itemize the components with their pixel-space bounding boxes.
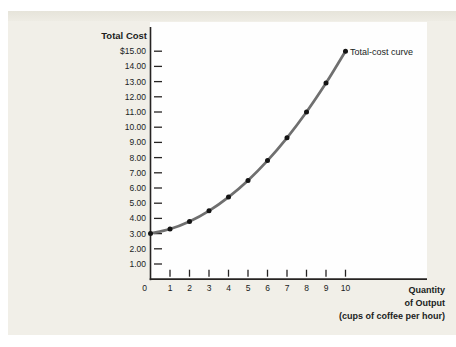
y-tick-label: 3.00 (129, 229, 146, 239)
data-point-marker (226, 195, 231, 200)
y-tick-label: 14.00 (125, 61, 147, 71)
y-tick-label: 9.00 (129, 137, 146, 147)
data-point-marker (343, 49, 348, 54)
total-cost-curve (151, 51, 346, 233)
y-tick-label: 2.00 (129, 244, 146, 254)
data-point-marker (304, 110, 309, 115)
y-axis-title: Total Cost (0, 30, 147, 41)
data-point-marker (168, 227, 173, 232)
curve-annotation-label: Total-cost curve (350, 47, 413, 57)
y-tick-label: 11.00 (125, 107, 146, 117)
x-axis-title-line-1: Quantity (245, 284, 445, 297)
y-tick-label: 1.00 (129, 259, 146, 269)
y-tick-label: 10.00 (125, 122, 147, 132)
y-tick-label: 7.00 (129, 168, 146, 178)
x-axis-title: Quantity of Output (cups of coffee per h… (245, 284, 445, 323)
y-tick-label: 5.00 (129, 198, 146, 208)
y-tick-label: 4.00 (129, 213, 146, 223)
y-tick-label: 13.00 (125, 77, 147, 87)
x-tick-label: 3 (207, 283, 212, 293)
y-tick-label: 12.00 (125, 92, 147, 102)
data-point-marker (285, 135, 290, 140)
data-point-marker (246, 178, 251, 183)
data-point-marker (187, 219, 192, 224)
data-point-marker (148, 231, 153, 236)
y-tick-label: 6.00 (129, 183, 146, 193)
x-tick-label: 4 (226, 283, 231, 293)
x-tick-label: 1 (168, 283, 173, 293)
data-point-marker (324, 81, 329, 86)
x-tick-label: 0 (142, 283, 147, 293)
data-point-marker (265, 158, 270, 163)
y-tick-label: 8.00 (129, 153, 146, 163)
x-axis-title-line-2: of Output (245, 297, 445, 310)
x-axis-title-line-3: (cups of coffee per hour) (245, 310, 445, 323)
data-point-marker (207, 208, 212, 213)
y-tick-label: $15.00 (120, 46, 146, 56)
x-tick-label: 2 (187, 283, 192, 293)
